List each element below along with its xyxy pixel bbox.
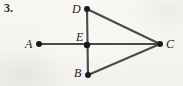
segment-bc — [88, 44, 160, 75]
point-label-b: B — [74, 67, 81, 79]
geometry-figure-panel: 3. A B C D E — [0, 0, 183, 86]
vertex-dots-group — [36, 6, 163, 78]
point-a-dot — [36, 41, 42, 47]
point-e-dot — [84, 42, 90, 48]
point-label-a: A — [25, 38, 32, 50]
segments-group — [39, 9, 160, 75]
point-label-c: C — [166, 38, 174, 50]
point-b-dot — [85, 72, 91, 78]
point-c-dot — [157, 41, 163, 47]
point-label-d: D — [72, 3, 81, 15]
point-d-dot — [84, 6, 90, 12]
point-label-e: E — [76, 31, 83, 43]
segment-dc — [87, 9, 160, 44]
